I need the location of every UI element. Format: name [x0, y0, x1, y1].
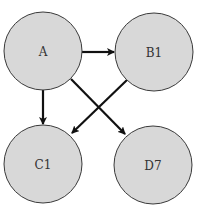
- node-d7[interactable]: D7: [114, 126, 192, 204]
- node-c1-label: C1: [35, 158, 52, 172]
- node-c1[interactable]: C1: [4, 125, 82, 203]
- node-d7-label: D7: [144, 159, 161, 173]
- node-a-label: A: [38, 45, 48, 59]
- node-b1[interactable]: B1: [115, 13, 193, 91]
- node-a[interactable]: A: [4, 12, 82, 90]
- graph-diagram: A B1 C1 D7: [0, 0, 197, 214]
- node-b1-label: B1: [146, 46, 162, 60]
